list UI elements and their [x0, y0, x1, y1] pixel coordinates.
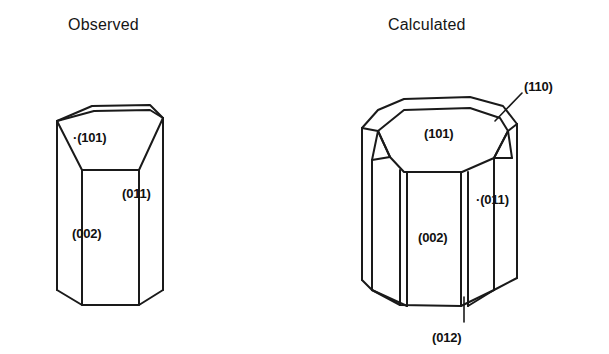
calculated-top-outer-ridge — [362, 97, 517, 128]
calculated-label-011: ·(011) — [476, 192, 509, 207]
observed-base — [57, 290, 163, 305]
calculated-base-front — [372, 290, 407, 306]
calculated-label-012: (012) — [432, 330, 461, 345]
observed-top-rear-edge — [57, 110, 163, 121]
observed-label-011: (011) — [122, 186, 151, 201]
calculated-bevel-top-right — [508, 124, 517, 158]
calculated-bevel-top-left — [362, 128, 378, 160]
calculated-label-101: (101) — [424, 126, 453, 141]
calculated-label-002: (002) — [418, 230, 447, 245]
observed-top-ridge — [57, 105, 163, 121]
calculated-base-front-right — [468, 290, 494, 306]
leader-line-110 — [495, 93, 522, 121]
panel-title-observed: Observed — [68, 16, 139, 34]
crystal-morphology-figure — [0, 0, 609, 354]
calculated-shoulder-left — [372, 157, 390, 160]
observed-label-101: ·(101) — [73, 130, 106, 145]
panel-title-calculated: Calculated — [388, 16, 466, 34]
observed-label-002: (002) — [72, 226, 101, 241]
calculated-label-110: (110) — [524, 79, 553, 94]
